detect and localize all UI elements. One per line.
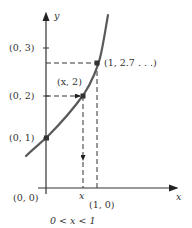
y-axis-label: y [53,10,60,21]
point-x-2 [81,94,86,99]
origin-label: (0, 0) [13,192,39,203]
tick-label-y-2: (0, 2) [9,90,35,101]
point-0-1 [44,136,49,141]
caption: 0 < x < 1 [50,215,95,226]
graph-canvas: y x (0, 3) (0, 2) (0, 1) (0, 0) (x, 2) (… [0,0,192,228]
tick-label-y-1: (0, 1) [9,132,35,143]
point-1-e [95,61,100,66]
tick-label-x-1: (1, 0) [89,199,115,210]
tick-label-y-3: (0, 3) [9,42,35,53]
point-label-1-e: (1, 2.7 . . .) [104,57,157,68]
x-axis-label: x [176,191,182,202]
point-label-x-2: (x, 2) [57,76,82,87]
tick-label-x: x [79,190,85,201]
